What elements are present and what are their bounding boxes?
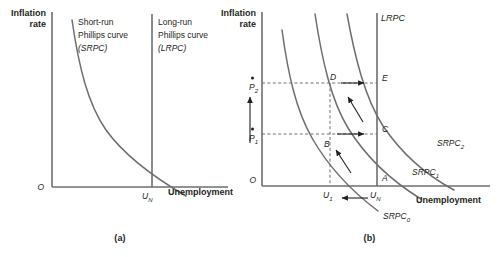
srpc1-curve: [315, 14, 421, 199]
y-axis-label-a-line1: Inflation: [11, 8, 46, 18]
srpc2-curve: [347, 14, 454, 190]
lrpc-note-line3: (LRPC): [158, 43, 187, 53]
srpc-note-line3: (SRPC): [78, 43, 107, 53]
y-axis-label-a-line2: rate: [29, 19, 46, 29]
p1-dot-accent: [251, 128, 254, 131]
point-label-c: C: [382, 124, 389, 134]
origin-label-a: O: [37, 182, 44, 192]
y-tick-p2: P2: [249, 82, 259, 94]
srpc-note-line1: Short-run: [78, 17, 114, 27]
arrow-c-to-d: [348, 97, 363, 122]
lrpc-note-line2: Phillips curve: [158, 30, 208, 40]
panel-b: Inflation rate O Unemployment LRPC SRPC0…: [238, 0, 501, 257]
y-axis-label-b-line1: Inflation: [221, 8, 256, 18]
x-tick-u1: U1: [323, 190, 332, 202]
point-label-e: E: [382, 73, 388, 83]
y-axis-label-b-line2: rate: [239, 19, 256, 29]
x-axis-label-a: Unemployment: [168, 187, 233, 197]
panel-a-chart: Inflation rate O UN Unemployment Short-r…: [0, 0, 240, 230]
srpc2-label: SRPC2: [437, 138, 465, 150]
srpc0-label: SRPC0: [383, 211, 411, 223]
point-label-d: D: [330, 72, 336, 82]
p2-dot-accent: [251, 77, 254, 80]
panel-b-chart: Inflation rate O Unemployment LRPC SRPC0…: [238, 0, 501, 230]
x-tick-a-un: UN: [142, 191, 153, 203]
lrpc-label: LRPC: [381, 13, 406, 23]
panel-b-caption: (b): [238, 233, 501, 243]
lrpc-note-line1: Long-run: [158, 17, 192, 27]
y-tick-p1: P1: [249, 133, 258, 145]
srpc1-label: SRPC1: [412, 167, 439, 179]
arrow-a-to-b: [336, 150, 351, 173]
origin-label-b: O: [249, 175, 256, 185]
point-label-b: B: [324, 139, 330, 149]
panel-a: Inflation rate O UN Unemployment Short-r…: [0, 0, 240, 257]
panel-a-caption: (a): [0, 233, 240, 243]
srpc0-curve: [282, 30, 378, 211]
x-tick-un: UN: [370, 190, 381, 202]
srpc-note-line2: Phillips curve: [78, 30, 128, 40]
x-axis-label-b: Unemployment: [416, 195, 481, 205]
point-label-a: A: [381, 173, 388, 183]
